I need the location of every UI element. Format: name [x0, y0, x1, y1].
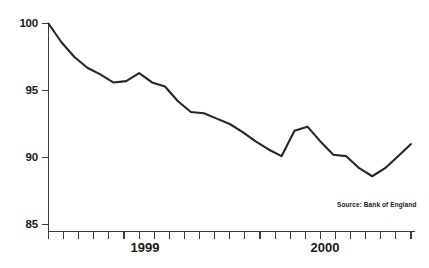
data-series-line — [49, 24, 412, 177]
y-axis-label-85: 85 — [8, 218, 38, 230]
x-axis-label-2000: 2000 — [295, 240, 355, 255]
source-attribution: Source: Bank of England — [337, 201, 417, 208]
y-axis-label-95: 95 — [8, 84, 38, 96]
y-tick-marks — [42, 24, 49, 225]
x-tick-marks — [49, 232, 412, 239]
y-axis-label-90: 90 — [8, 151, 38, 163]
chart-container: 100 95 90 85 1999 2000 Source: Bank of E… — [0, 0, 429, 268]
x-axis-label-1999: 1999 — [115, 240, 175, 255]
chart-plot-area — [0, 0, 429, 268]
y-axis-label-100: 100 — [8, 17, 38, 29]
